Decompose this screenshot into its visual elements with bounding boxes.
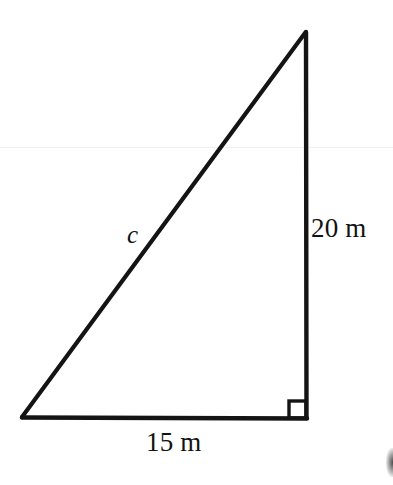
horizontal-side-label: 15 m — [146, 429, 202, 456]
right-angle-marker-icon — [289, 401, 306, 418]
page-edge-smudge — [386, 448, 393, 477]
hypotenuse-line — [22, 33, 305, 417]
right-triangle-figure: 20 m 15 m c — [0, 0, 393, 485]
vertical-side-label: 20 m — [311, 215, 367, 242]
horizontal-leg-line — [22, 418, 307, 419]
hypotenuse-label: c — [127, 222, 138, 247]
vertical-leg-line — [306, 32, 307, 418]
